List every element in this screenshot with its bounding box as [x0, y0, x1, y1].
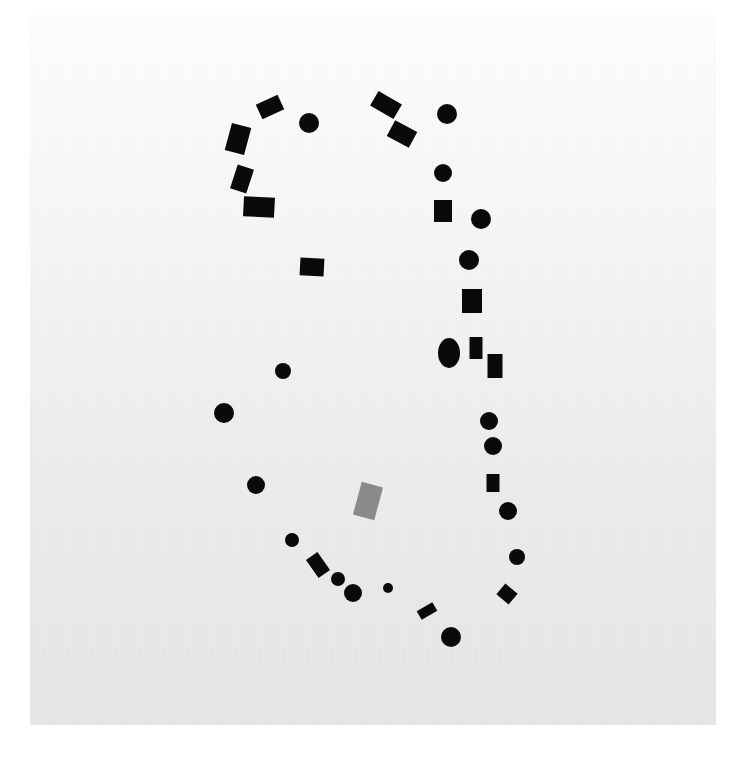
paper-background	[30, 15, 716, 725]
black-circle	[437, 104, 457, 124]
black-circle	[275, 363, 291, 379]
black-rectangle	[470, 337, 483, 359]
black-circle	[471, 209, 491, 229]
black-rectangle	[300, 257, 325, 276]
black-circle	[383, 583, 393, 593]
black-circle	[480, 412, 498, 430]
black-rectangle	[487, 474, 500, 492]
black-circle	[299, 113, 319, 133]
black-circle	[509, 549, 525, 565]
black-rectangle	[434, 200, 452, 222]
black-circle	[331, 572, 345, 586]
black-circle	[441, 627, 461, 647]
black-rectangle	[488, 354, 503, 378]
black-circle	[459, 250, 479, 270]
black-rectangle	[462, 289, 482, 313]
black-circle	[434, 164, 452, 182]
black-circle	[344, 584, 362, 602]
black-ellipse	[438, 338, 460, 368]
black-circle	[499, 502, 517, 520]
black-circle	[484, 437, 502, 455]
black-circle	[285, 533, 299, 547]
black-rectangle	[243, 196, 275, 218]
black-circle	[214, 403, 234, 423]
black-circle	[247, 476, 265, 494]
